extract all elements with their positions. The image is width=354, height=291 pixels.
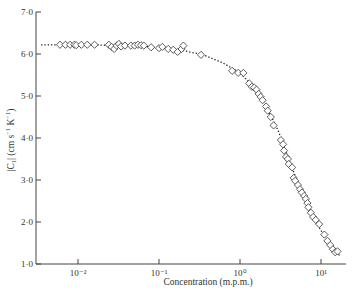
diamond-marker — [240, 69, 247, 76]
y-axis-title: |C1| (cm s−1 K−1) — [4, 109, 17, 172]
y-title-exp1: −1 — [4, 128, 11, 135]
chart: 1·02·03·04·05·06·07·0 10⁻²10⁻¹10⁰10¹ Con… — [0, 0, 354, 291]
x-ticks: 10⁻²10⁻¹10⁰10¹ — [70, 259, 328, 278]
y-tick-label: 7·0 — [21, 7, 33, 17]
data-points — [56, 40, 341, 256]
diamond-marker — [91, 41, 98, 48]
diamond-marker — [197, 51, 204, 58]
y-tick-label: 3·0 — [21, 175, 33, 185]
x-tick-label: 10⁻² — [70, 268, 87, 278]
y-tick-label: 1·0 — [21, 259, 33, 269]
y-ticks: 1·02·03·04·05·06·07·0 — [21, 7, 41, 269]
y-title-unit: | (cm s — [6, 135, 17, 160]
x-tick-label: 10¹ — [315, 268, 327, 278]
y-title-exp2: −1 — [4, 112, 11, 119]
diamond-marker — [270, 122, 277, 129]
axes — [36, 12, 346, 264]
y-tick-label: 5·0 — [21, 91, 33, 101]
diamond-marker — [148, 44, 155, 51]
svg-text:|C1| (cm s−1 K−1): |C1| (cm s−1 K−1) — [4, 109, 17, 172]
y-title-c: |C — [6, 163, 16, 171]
x-axis-title: Concentration (m.p.m.) — [163, 277, 252, 288]
y-tick-label: 2·0 — [21, 217, 33, 227]
y-title-k: K — [6, 119, 16, 128]
y-title-close: ) — [6, 109, 17, 112]
diamond-marker — [84, 41, 91, 48]
fit-curve — [41, 45, 340, 256]
fit-line — [41, 45, 340, 256]
y-tick-label: 4·0 — [21, 133, 33, 143]
diamond-marker — [321, 231, 328, 238]
y-tick-label: 6·0 — [21, 49, 33, 59]
